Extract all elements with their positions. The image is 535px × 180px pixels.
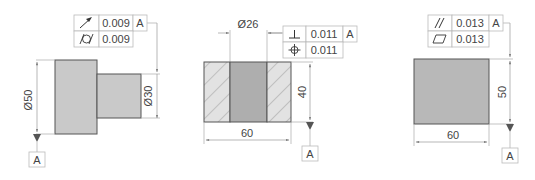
fcf-tolerance: 0.013 bbox=[456, 17, 484, 29]
dim-d26-label: Ø26 bbox=[238, 18, 259, 30]
datum-label: A bbox=[306, 148, 314, 160]
datum-label: A bbox=[506, 150, 514, 162]
shaft-small-section bbox=[97, 74, 141, 118]
dim-d30-label: Ø30 bbox=[142, 86, 154, 107]
dim-height-label: 40 bbox=[296, 86, 308, 98]
figure-rect-block: 60 50 A 0.013 A 0.0 bbox=[414, 15, 518, 163]
feature-control-frame: 0.009 A 0.009 bbox=[74, 15, 157, 47]
dim-width-label: 60 bbox=[447, 129, 459, 141]
feature-control-frame: 0.011 A 0.011 bbox=[283, 26, 357, 58]
hatched-wall-left bbox=[204, 62, 230, 122]
fcf-tolerance: 0.011 bbox=[311, 28, 338, 40]
datum-triangle-icon bbox=[506, 124, 514, 132]
block-part bbox=[414, 59, 489, 124]
bore-section bbox=[230, 62, 267, 122]
fcf-tolerance: 0.009 bbox=[102, 17, 130, 29]
fcf-tolerance: 0.009 bbox=[102, 33, 130, 45]
datum-label: A bbox=[33, 154, 41, 166]
hatched-wall-right bbox=[267, 62, 291, 122]
fcf-tolerance: 0.011 bbox=[311, 44, 338, 56]
datum-triangle-icon bbox=[306, 122, 314, 130]
dim-d50-label: Ø50 bbox=[22, 90, 34, 111]
figure-bushing-section: Ø26 60 40 A bbox=[204, 18, 357, 161]
fcf-datum: A bbox=[492, 17, 500, 29]
fcf-tolerance: 0.013 bbox=[456, 33, 484, 45]
shaft-large-section bbox=[55, 60, 97, 134]
gdt-drawing: Ø50 A Ø30 bbox=[0, 0, 535, 180]
datum-triangle-icon bbox=[33, 134, 41, 142]
fcf-datum: A bbox=[346, 28, 354, 40]
figure-stepped-shaft: Ø50 A Ø30 bbox=[22, 15, 160, 167]
dim-height-label: 50 bbox=[496, 86, 508, 98]
fcf-datum: A bbox=[136, 17, 144, 29]
dim-width-label: 60 bbox=[241, 127, 253, 139]
feature-control-frame: 0.013 A 0.013 bbox=[428, 15, 510, 47]
